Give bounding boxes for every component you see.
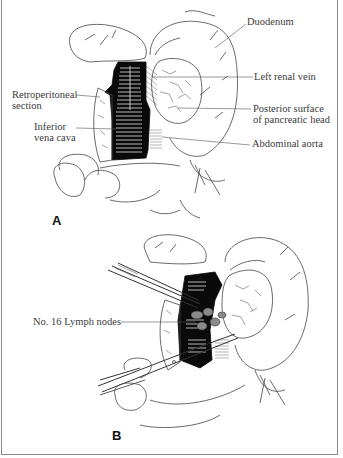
label-posterior-surface-1: Posterior surface — [253, 103, 324, 115]
panel-b-drawing — [98, 235, 308, 428]
label-ivc-2: vena cava — [34, 132, 76, 144]
label-retroperitoneal-1: Retroperitoneal — [12, 89, 77, 101]
label-ivc-1: Inferior — [34, 121, 66, 133]
panel-label-a: A — [52, 213, 61, 228]
surgical-illustration — [0, 0, 343, 458]
label-abdominal-aorta: Abdominal aorta — [252, 138, 323, 150]
label-posterior-surface-2: of pancreatic head — [253, 114, 330, 126]
panel-a-drawing — [54, 11, 238, 218]
label-duodenum: Duodenum — [247, 16, 294, 28]
label-lymph-nodes: No. 16 Lymph nodes — [33, 316, 121, 328]
panel-label-b: B — [112, 428, 121, 443]
label-retroperitoneal-2: section — [12, 100, 42, 112]
label-left-renal-vein: Left renal vein — [254, 71, 316, 83]
leader-lines — [76, 24, 253, 322]
